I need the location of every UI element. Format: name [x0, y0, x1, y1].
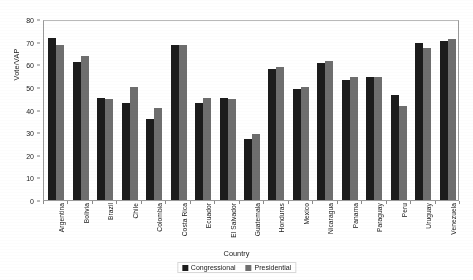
- bar-congressional: [122, 103, 130, 200]
- bar-group: [93, 98, 117, 200]
- bar-congressional: [171, 45, 179, 200]
- bar-congressional: [146, 119, 154, 200]
- x-axis-tick-label: Argentina: [58, 203, 65, 232]
- bar-group: [68, 56, 92, 200]
- bar-presidential: [81, 56, 89, 200]
- bar-congressional: [97, 98, 105, 200]
- bar-presidential: [374, 77, 382, 200]
- bar-presidential: [301, 87, 309, 200]
- x-axis-title: Country: [0, 249, 473, 258]
- bar-presidential: [154, 108, 162, 200]
- bar-presidential: [350, 77, 358, 200]
- legend-label: Presidential: [255, 264, 292, 271]
- x-axis-tick-label: Guatemala: [254, 203, 261, 236]
- bar-group: [264, 67, 288, 200]
- y-axis-title: Vote/VAP: [12, 20, 21, 110]
- bar-group: [44, 38, 68, 200]
- y-axis-tick-label: 80: [26, 17, 34, 24]
- bar-presidential: [252, 134, 260, 200]
- y-axis-tick-mark: [37, 87, 40, 88]
- legend-entry: Presidential: [246, 264, 292, 271]
- x-axis-tick-label: Nicaragua: [327, 203, 334, 234]
- bar-presidential: [105, 99, 113, 200]
- bar-presidential: [203, 98, 211, 200]
- bar-group: [166, 45, 190, 200]
- bar-congressional: [268, 69, 276, 200]
- bar-presidential: [448, 39, 456, 200]
- x-axis-tick-label: Venezuela: [450, 203, 457, 235]
- bar-congressional: [366, 77, 374, 200]
- y-axis-tick-mark: [37, 20, 40, 21]
- y-axis-tick-mark: [37, 155, 40, 156]
- x-axis-tick-label: Bolivia: [83, 203, 90, 223]
- bar-congressional: [48, 38, 56, 200]
- bar-presidential: [179, 45, 187, 200]
- y-axis-tick-label: 40: [26, 107, 34, 114]
- y-axis-tick-mark: [37, 65, 40, 66]
- x-axis-tick-label: Peru: [401, 203, 408, 217]
- plot-area: [43, 20, 459, 201]
- x-axis-tick-label: Mexico: [303, 203, 310, 225]
- y-axis-tick-label: 70: [26, 39, 34, 46]
- bar-presidential: [423, 48, 431, 200]
- bar-group: [191, 98, 215, 200]
- bar-presidential: [399, 106, 407, 200]
- legend-swatch-icon: [182, 265, 188, 271]
- bar-group: [362, 77, 386, 200]
- x-axis-tick-label: Uruguay: [425, 203, 432, 229]
- bar-congressional: [220, 98, 228, 200]
- bar-group: [289, 87, 313, 200]
- bar-group: [215, 98, 239, 200]
- x-axis-tick-labels: ArgentinaBoliviaBrazilChileColombiaCosta…: [43, 203, 459, 248]
- bar-congressional: [317, 63, 325, 200]
- y-axis-tick-mark: [37, 178, 40, 179]
- y-axis-tick-label: 60: [26, 62, 34, 69]
- bar-group: [411, 43, 435, 200]
- bar-presidential: [276, 67, 284, 200]
- bar-congressional: [244, 139, 252, 200]
- y-axis-tick-mark: [37, 201, 40, 202]
- x-axis-tick-label: Panama: [352, 203, 359, 228]
- y-axis-tick-label: 20: [26, 152, 34, 159]
- x-axis-tick-label: Honduras: [278, 203, 285, 232]
- y-axis-tick-label: 50: [26, 84, 34, 91]
- bar-presidential: [56, 45, 64, 200]
- bar-group: [338, 77, 362, 200]
- bar-chart-figure: 01020304050607080 Vote/VAP ArgentinaBoli…: [0, 0, 473, 280]
- bar-congressional: [195, 103, 203, 200]
- bar-group: [436, 39, 460, 200]
- y-axis-tick-label: 30: [26, 130, 34, 137]
- bar-congressional: [293, 89, 301, 200]
- chart-legend: CongressionalPresidential: [177, 262, 296, 273]
- x-axis-tick-label: Chile: [132, 203, 139, 219]
- bar-group: [117, 87, 141, 200]
- legend-swatch-icon: [246, 265, 252, 271]
- x-axis-tick-label: Colombia: [156, 203, 163, 232]
- legend-label: Congressional: [191, 264, 236, 271]
- bar-congressional: [415, 43, 423, 200]
- x-axis-tick-label: El Salvador: [230, 203, 237, 238]
- bar-congressional: [440, 41, 448, 201]
- y-axis-tick-label: 10: [26, 175, 34, 182]
- bar-congressional: [73, 62, 81, 200]
- bars-layer: [44, 21, 458, 200]
- x-axis-tick-label: Brazil: [107, 203, 114, 220]
- y-axis-tick-label: 0: [30, 198, 34, 205]
- bar-presidential: [130, 87, 138, 200]
- x-axis-tick-mark: [459, 201, 460, 204]
- bar-presidential: [325, 61, 333, 200]
- bar-presidential: [228, 99, 236, 200]
- x-axis-tick-label: Costa Rica: [181, 203, 188, 236]
- y-axis-tick-mark: [37, 42, 40, 43]
- x-axis-tick-label: Ecuador: [205, 203, 212, 228]
- legend-entry: Congressional: [182, 264, 236, 271]
- bar-group: [387, 95, 411, 200]
- bar-group: [142, 108, 166, 200]
- y-axis-tick-mark: [37, 133, 40, 134]
- bar-group: [240, 134, 264, 200]
- x-axis-tick-label: Paraguay: [376, 203, 383, 232]
- y-axis-tick-mark: [37, 110, 40, 111]
- bar-congressional: [342, 80, 350, 200]
- bar-group: [313, 61, 337, 200]
- bar-congressional: [391, 95, 399, 200]
